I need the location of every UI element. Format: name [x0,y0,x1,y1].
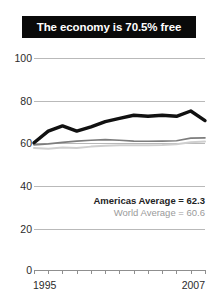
economic-freedom-chart: The economy is 70.5% free 100 80 60 40 2… [0,0,214,307]
legend-world-average: World Average = 60.6 [114,207,205,218]
country-freedom-line [34,111,205,143]
legend-americas-average: Americas Average = 62.3 [93,195,205,206]
series-canvas [0,0,214,307]
plot-area: 100 80 60 40 20 0 1995 2007 Americas Ave… [0,0,214,307]
